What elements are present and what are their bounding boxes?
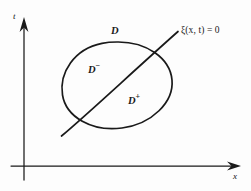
region-label-d-plus-superscript: + [136,92,141,101]
interface-curve-label: ξ(x, t) = 0 [181,26,220,36]
interface-line-path [62,32,179,137]
t-axis [20,17,29,180]
t-axis-label: t [13,12,16,21]
region-label-d-plus-base: D [128,95,136,106]
region-label-d-minus-base: D [88,64,96,75]
figure-container: t x D D− D+ ξ(x, t) = 0 [0,0,251,191]
region-label-d-minus-superscript: − [96,61,101,70]
ellipse-path [62,42,172,129]
domain-boundary-curve [62,42,172,129]
interface-curve [62,32,179,137]
region-label-d-minus: D− [88,62,100,75]
domain-label-d: D [111,26,119,37]
region-label-d-plus: D+ [128,93,140,106]
x-axis-label: x [233,172,237,181]
x-axis [11,162,241,171]
